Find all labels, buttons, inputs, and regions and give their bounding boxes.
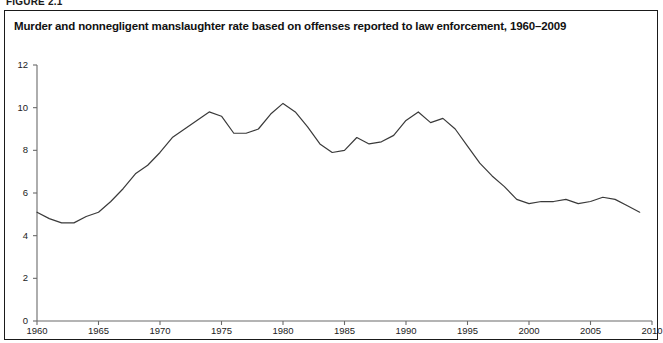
y-axis-tick-label: 0 <box>4 316 28 326</box>
y-axis-tick-label: 12 <box>4 60 28 70</box>
x-axis-tick-label: 1980 <box>266 326 300 336</box>
x-axis-tick-label: 1960 <box>20 326 54 336</box>
x-axis-tick-label: 1990 <box>389 326 423 336</box>
chart-page: FIGURE 2.1 Murder and nonnegligent mansl… <box>0 0 663 343</box>
y-axis-tick-label: 6 <box>4 188 28 198</box>
chart-frame <box>4 10 658 340</box>
x-axis-tick-label: 1985 <box>328 326 362 336</box>
x-axis-tick-label: 2010 <box>635 326 663 336</box>
y-axis-tick-label: 2 <box>4 273 28 283</box>
x-axis-tick-label: 1970 <box>143 326 177 336</box>
x-axis-tick-label: 1995 <box>451 326 485 336</box>
chart-title: Murder and nonnegligent manslaughter rat… <box>14 20 634 32</box>
x-axis-tick-label: 1965 <box>82 326 116 336</box>
x-axis-tick-label: 1975 <box>205 326 239 336</box>
y-axis-tick-label: 4 <box>4 231 28 241</box>
x-axis-tick-label: 2005 <box>574 326 608 336</box>
figure-label: FIGURE 2.1 <box>6 0 126 8</box>
x-axis-tick-label: 2000 <box>512 326 546 336</box>
y-axis-tick-label: 10 <box>4 103 28 113</box>
y-axis-tick-label: 8 <box>4 145 28 155</box>
